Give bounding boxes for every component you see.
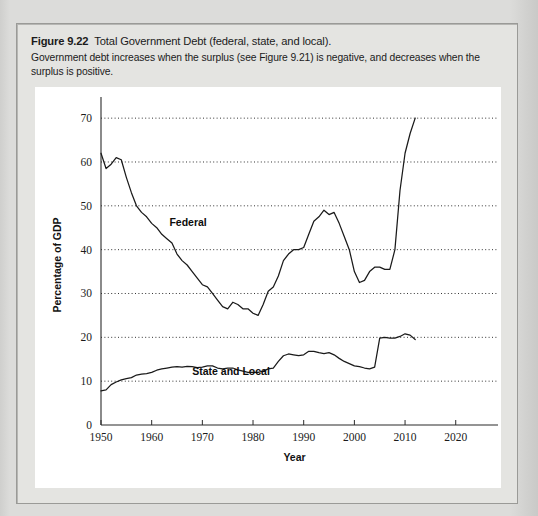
figure-description: Government debt increases when the surpl… xyxy=(31,51,503,79)
x-tick-label: 2000 xyxy=(343,431,366,443)
page-background: Figure 9.22 Total Government Debt (feder… xyxy=(0,0,538,516)
x-tick-label: 2010 xyxy=(394,431,417,443)
chart-plot-panel: 010203040506070 195019601970198019902000… xyxy=(35,87,501,488)
x-tick-label: 1970 xyxy=(191,431,214,443)
caption-title-line: Figure 9.22 Total Government Debt (feder… xyxy=(31,34,503,49)
y-tick-label: 40 xyxy=(81,244,93,256)
series-line-state-and-local xyxy=(101,334,415,391)
x-tick-label: 2020 xyxy=(444,431,467,443)
y-tick-label: 20 xyxy=(81,331,93,343)
series-label-state-and-local: State and Local xyxy=(192,365,270,377)
line-chart: 010203040506070 195019601970198019902000… xyxy=(35,87,501,488)
data-series xyxy=(101,118,415,391)
y-tick-label: 30 xyxy=(81,287,93,299)
y-tick-label: 50 xyxy=(81,200,93,212)
x-tick-label: 1990 xyxy=(292,431,315,443)
x-tick-label: 1950 xyxy=(90,431,113,443)
x-tick-label: 1980 xyxy=(242,431,265,443)
figure-title: Total Government Debt (federal, state, a… xyxy=(94,35,331,47)
y-tick-label: 60 xyxy=(81,156,93,168)
y-tick-label: 10 xyxy=(81,375,93,387)
x-tick-label: 1960 xyxy=(140,431,163,443)
y-tick-label: 0 xyxy=(86,419,92,431)
series-labels: FederalState and Local xyxy=(169,216,269,378)
series-label-federal: Federal xyxy=(169,216,206,228)
y-tick-label: 70 xyxy=(81,112,93,124)
figure-caption: Figure 9.22 Total Government Debt (feder… xyxy=(31,34,503,79)
x-axis-title: Year xyxy=(283,451,305,463)
figure-card: Figure 9.22 Total Government Debt (feder… xyxy=(16,23,518,504)
series-line-federal xyxy=(101,118,415,315)
y-axis-ticks: 010203040506070 xyxy=(81,112,93,431)
figure-number: Figure 9.22 xyxy=(31,35,88,47)
x-axis-ticks: 19501960197019801990200020102020 xyxy=(90,420,468,443)
y-axis-title: Percentage of GDP xyxy=(51,217,63,312)
